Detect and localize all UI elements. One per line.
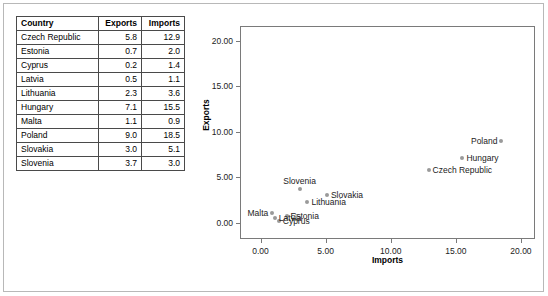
table-body: Czech Republic5.812.9Estonia0.72.0Cyprus… (17, 31, 185, 171)
data-point (427, 168, 431, 172)
cell-country: Lithuania (17, 87, 99, 101)
data-point-label: Slovenia (283, 176, 316, 186)
table-row: Latvia0.51.1 (17, 73, 185, 87)
table-header-row: Country Exports Imports (17, 17, 185, 31)
cell-exports: 3.0 (99, 143, 142, 157)
cell-country: Poland (17, 129, 99, 143)
data-point (460, 156, 464, 160)
cell-country: Estonia (17, 45, 99, 59)
cell-imports: 2.0 (142, 45, 185, 59)
cell-imports: 1.1 (142, 73, 185, 87)
data-table-container: Country Exports Imports Czech Republic5.… (16, 16, 184, 171)
data-point (298, 187, 302, 191)
x-tick-mark (456, 238, 457, 243)
x-tick-mark (521, 238, 522, 243)
table-row: Cyprus0.21.4 (17, 59, 185, 73)
cell-exports: 0.7 (99, 45, 142, 59)
cell-imports: 0.9 (142, 115, 185, 129)
x-axis-title: Imports (240, 255, 535, 265)
data-point (499, 139, 503, 143)
cell-imports: 18.5 (142, 129, 185, 143)
cell-imports: 15.5 (142, 101, 185, 115)
y-tick-mark (236, 86, 241, 87)
cell-exports: 2.3 (99, 87, 142, 101)
figure-container: Country Exports Imports Czech Republic5.… (0, 0, 548, 296)
cell-exports: 1.1 (99, 115, 142, 129)
scatter-chart: Exports 0.005.0010.0015.0020.00 0.005.00… (196, 10, 541, 286)
y-tick-label: 0.00 (197, 218, 233, 228)
cell-imports: 1.4 (142, 59, 185, 73)
table-row: Poland9.018.5 (17, 129, 185, 143)
cell-country: Malta (17, 115, 99, 129)
cell-country: Latvia (17, 73, 99, 87)
y-tick-mark (236, 41, 241, 42)
x-tick-mark (391, 238, 392, 243)
y-tick-label: 5.00 (197, 172, 233, 182)
cell-imports: 3.0 (142, 157, 185, 171)
table-row: Slovakia3.05.1 (17, 143, 185, 157)
data-point (270, 211, 274, 215)
cell-exports: 0.2 (99, 59, 142, 73)
plot-area: 0.005.0010.0015.0020.00 0.005.0010.0015.… (240, 26, 535, 239)
column-header-exports: Exports (99, 17, 142, 31)
cell-imports: 5.1 (142, 143, 185, 157)
cell-country: Slovenia (17, 157, 99, 171)
x-tick-mark (326, 238, 327, 243)
data-point-label: Slovakia (331, 190, 363, 200)
cell-country: Cyprus (17, 59, 99, 73)
data-point (273, 216, 277, 220)
data-point-label: Latvia (279, 213, 302, 223)
data-point (305, 200, 309, 204)
table-row: Hungary7.115.5 (17, 101, 185, 115)
cell-country: Slovakia (17, 143, 99, 157)
data-point-label: Hungary (466, 153, 498, 163)
cell-exports: 5.8 (99, 31, 142, 45)
x-tick-mark (261, 238, 262, 243)
column-header-country: Country (17, 17, 99, 31)
column-header-imports: Imports (142, 17, 185, 31)
cell-country: Czech Republic (17, 31, 99, 45)
table-row: Slovenia3.73.0 (17, 157, 185, 171)
data-point-label: Poland (471, 136, 497, 146)
y-tick-mark (236, 177, 241, 178)
y-tick-label: 15.00 (197, 81, 233, 91)
data-point-label: Czech Republic (433, 165, 493, 175)
data-point-label: Malta (247, 208, 268, 218)
cell-exports: 0.5 (99, 73, 142, 87)
table-row: Czech Republic5.812.9 (17, 31, 185, 45)
cell-exports: 9.0 (99, 129, 142, 143)
y-tick-label: 10.00 (197, 127, 233, 137)
country-trade-table: Country Exports Imports Czech Republic5.… (16, 16, 185, 171)
table-row: Lithuania2.33.6 (17, 87, 185, 101)
table-row: Estonia0.72.0 (17, 45, 185, 59)
cell-imports: 12.9 (142, 31, 185, 45)
cell-exports: 3.7 (99, 157, 142, 171)
cell-exports: 7.1 (99, 101, 142, 115)
y-tick-label: 20.00 (197, 36, 233, 46)
y-tick-mark (236, 132, 241, 133)
cell-country: Hungary (17, 101, 99, 115)
y-tick-mark (236, 223, 241, 224)
table-row: Malta1.10.9 (17, 115, 185, 129)
cell-imports: 3.6 (142, 87, 185, 101)
